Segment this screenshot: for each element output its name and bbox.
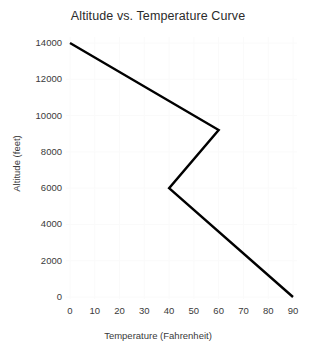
gridlines (66, 37, 297, 299)
data-series-line (70, 43, 293, 297)
y-axis-tick-label: 14000 (8, 37, 62, 48)
y-axis-tick-label: 12000 (8, 73, 62, 84)
y-axis-tick-label: 0 (8, 291, 62, 302)
x-axis-tick-label: 90 (278, 305, 308, 316)
y-axis-label: Altitude (feet) (11, 104, 22, 224)
chart-figure: Altitude vs. Temperature Curve 020004000… (0, 0, 316, 361)
x-axis-label: Temperature (Fahrenheit) (0, 330, 316, 341)
y-axis-tick-label: 2000 (8, 255, 62, 266)
